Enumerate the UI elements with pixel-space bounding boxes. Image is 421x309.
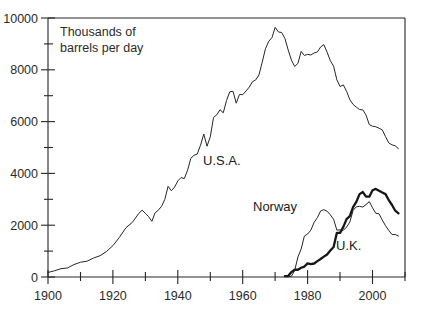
x-axis-tick-labels: 1900 1920 1940 1960 1980 2000 [34,289,386,303]
series-label-norway: Norway [253,199,298,214]
series-line-norway [285,189,399,276]
y-ticklabel-10000: 10000 [3,12,38,26]
y-axis-tick-labels: 10000 8000 6000 4000 2000 0 [3,12,38,285]
x-ticklabel-1940: 1940 [164,289,192,303]
x-ticklabel-2000: 2000 [359,289,387,303]
y-ticklabel-8000: 8000 [10,63,38,77]
y-ticklabel-6000: 6000 [10,115,38,129]
series-label-usa: U.S.A. [203,153,241,168]
series-line-usa [48,27,399,272]
series-label-uk: U.K. [336,238,361,253]
x-ticklabel-1980: 1980 [294,289,322,303]
units-note: Thousands of barrels per day [60,25,144,55]
x-ticklabel-1920: 1920 [99,289,127,303]
units-note-line2: barrels per day [60,41,144,55]
chart-title-clipped [150,0,330,1]
y-ticklabel-4000: 4000 [10,167,38,181]
units-note-line1: Thousands of [60,25,136,39]
y-ticklabel-0: 0 [31,271,38,285]
x-ticklabel-1900: 1900 [34,289,62,303]
oil-production-line-chart: 10000 8000 6000 4000 2000 0 1900 [0,0,421,309]
y-ticklabel-2000: 2000 [10,219,38,233]
x-ticklabel-1960: 1960 [229,289,257,303]
chart-figure: 10000 8000 6000 4000 2000 0 1900 [0,0,421,309]
